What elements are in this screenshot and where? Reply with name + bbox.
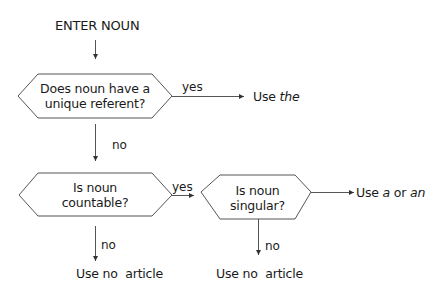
outcome-use-an-italic: an [410, 185, 425, 200]
label-countable-yes: yes [172, 180, 193, 194]
outcome-use-the: Use the [253, 89, 299, 104]
outcome-use-a-an-middle: or [390, 185, 410, 200]
outcome-use-a-an-prefix: Use [356, 185, 383, 200]
outcome-no-article-2: Use no article [216, 266, 303, 281]
label-singular-no: no [265, 239, 280, 253]
label-unique-no: no [112, 138, 127, 152]
outcome-use-a-italic: a [383, 185, 390, 200]
decision-countable-line2: countable? [38, 195, 152, 210]
label-countable-no: no [101, 238, 116, 252]
flowchart-canvas [0, 0, 431, 294]
decision-unique-referent: Does noun have a unique referent? [38, 81, 152, 111]
label-unique-yes: yes [182, 80, 203, 94]
decision-unique-line1: Does noun have a [38, 81, 152, 96]
outcome-use-a-an: Use a or an [356, 185, 425, 200]
start-node: ENTER NOUN [55, 18, 139, 33]
decision-singular: Is noun singular? [220, 183, 295, 213]
outcome-use-the-prefix: Use [253, 89, 280, 104]
decision-singular-line2: singular? [220, 198, 295, 213]
decision-countable: Is noun countable? [38, 180, 152, 210]
decision-countable-line1: Is noun [38, 180, 152, 195]
outcome-no-article-1: Use no article [76, 266, 163, 281]
outcome-use-the-italic: the [280, 89, 300, 104]
decision-singular-line1: Is noun [220, 183, 295, 198]
decision-unique-line2: unique referent? [38, 96, 152, 111]
